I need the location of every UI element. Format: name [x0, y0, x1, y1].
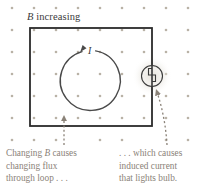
- caption-right-line3: that lights bulb.: [119, 172, 182, 185]
- caption-left-line2: changing flux: [6, 160, 77, 173]
- caption-right-line2: induced current: [119, 160, 182, 173]
- b-increasing-text: increasing: [34, 11, 81, 22]
- current-label: I: [88, 46, 91, 57]
- induction-diagram: B increasing I Changing B causes changin…: [0, 0, 206, 192]
- caption-right-line1: . . . which causes: [119, 147, 182, 160]
- caption-left-line1: Changing B causes: [6, 147, 77, 160]
- b-increasing-label: B increasing: [27, 11, 80, 22]
- caption-left-line1-post: causes: [50, 148, 77, 158]
- light-bulb: [142, 66, 163, 87]
- caption-left-line1-pre: Changing: [6, 148, 44, 158]
- caption-right: . . . which causes induced current that …: [119, 147, 182, 185]
- caption-left-line3: through loop . . .: [6, 172, 77, 185]
- caption-left: Changing B causes changing flux through …: [6, 147, 77, 185]
